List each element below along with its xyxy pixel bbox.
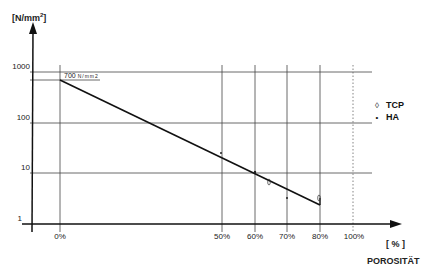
x-tick-100: 100% bbox=[344, 232, 364, 241]
legend: ◊ TCP • HA bbox=[373, 99, 404, 123]
h-gridlines bbox=[30, 72, 372, 173]
tcp-marker-icon: ◊ bbox=[373, 101, 381, 110]
y-tick-1: 1 bbox=[0, 214, 22, 223]
x-axis-arrow bbox=[390, 220, 402, 228]
x-tick-80: 80% bbox=[312, 232, 328, 241]
y-axis-arrow bbox=[29, 22, 37, 34]
v-gridlines bbox=[60, 65, 320, 232]
y-tick-100: 100 bbox=[2, 113, 30, 122]
ha-points bbox=[220, 152, 288, 199]
y-axis bbox=[32, 30, 33, 232]
y-tick-1000: 1000 bbox=[2, 62, 30, 71]
annotation-700: 700 N/mm2 bbox=[64, 72, 99, 79]
x-tick-50: 50% bbox=[214, 232, 230, 241]
y-axis-unit: [N/mm2] bbox=[12, 12, 46, 23]
y-tick-10: 10 bbox=[2, 163, 30, 172]
x-tick-70: 70% bbox=[279, 232, 295, 241]
x-tick-0: 0% bbox=[54, 232, 66, 241]
trend-line bbox=[60, 80, 320, 205]
x-tick-60: 60% bbox=[247, 232, 263, 241]
legend-item-tcp: ◊ TCP bbox=[373, 99, 404, 111]
x-axis-title: POROSITÄT bbox=[367, 256, 420, 266]
ha-marker-icon: • bbox=[373, 113, 381, 122]
tcp-points bbox=[268, 179, 321, 201]
x-axis-unit: [ % ] bbox=[386, 239, 405, 249]
legend-item-ha: • HA bbox=[373, 111, 404, 123]
